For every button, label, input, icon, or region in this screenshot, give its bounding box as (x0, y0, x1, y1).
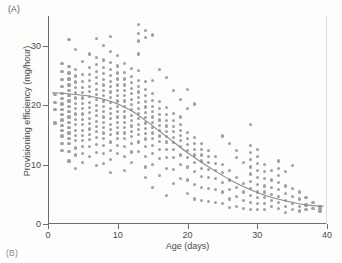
x-tick (188, 224, 189, 229)
x-tick-label: 30 (252, 231, 262, 240)
panel-label-b: (B) (6, 248, 18, 258)
x-axis-title: Age (days) (48, 241, 327, 251)
y-tick-label: 10 (31, 160, 41, 169)
y-tick-label: 0 (36, 220, 41, 229)
y-axis-title: Provisioning efficiency (mg/hour) (22, 21, 32, 201)
x-tick (48, 224, 49, 229)
scatter-plot: 0102030 010203040 (48, 16, 327, 224)
x-tick-label: 20 (182, 231, 192, 240)
y-tick-label: 30 (31, 41, 41, 50)
x-tick-label: 40 (322, 231, 332, 240)
panel-label-a: (A) (8, 4, 20, 14)
figure-panel-a: (A) (B) 0102030 010203040 Age (days) Pro… (0, 0, 342, 263)
x-tick (118, 224, 119, 229)
x-tick (327, 224, 328, 229)
trend-line-path (52, 93, 323, 207)
y-tick-label: 20 (31, 101, 41, 110)
trend-line-layer (48, 16, 327, 224)
x-tick (257, 224, 258, 229)
x-tick-label: 10 (113, 231, 123, 240)
x-tick-label: 0 (45, 231, 50, 240)
